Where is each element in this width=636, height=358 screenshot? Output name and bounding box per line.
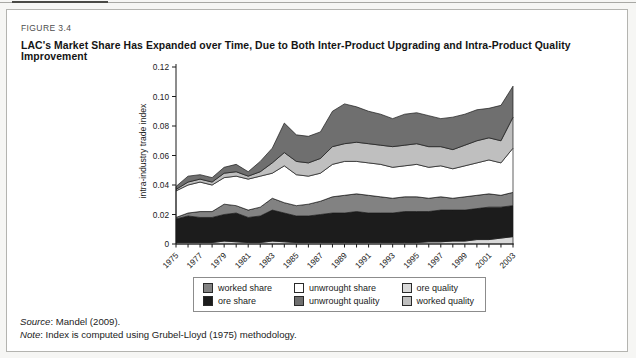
legend-item-ore-quality: ore quality [402, 283, 475, 293]
note-label: Note [20, 329, 40, 340]
figure-number-label: FIGURE 3.4 [21, 23, 71, 33]
legend-label: unwrought quality [309, 296, 380, 306]
x-tick-label: 1989 [329, 250, 349, 270]
y-tick-label: 0.06 [153, 151, 170, 161]
legend-label: ore share [218, 296, 256, 306]
chart-area: intra-industry trade index 00.020.040.06… [120, 60, 600, 278]
y-tick-label: 0.04 [153, 180, 170, 190]
legend-item-ore-share: ore share [203, 296, 272, 306]
page-top-rule-dark-segment [12, 1, 108, 3]
x-tick-label: 1977 [184, 250, 204, 270]
x-tick-label: 2003 [497, 250, 517, 270]
x-tick-label: 1975 [160, 250, 180, 270]
x-tick-label: 1991 [353, 250, 373, 270]
x-tick-label: 1985 [281, 250, 301, 270]
legend-swatch [203, 283, 213, 293]
legend-label: worked quality [417, 296, 475, 306]
y-tick-label: 0.10 [153, 92, 170, 102]
legend-item-worked-quality: worked quality [402, 296, 475, 306]
legend-item-worked-share: worked share [203, 283, 272, 293]
legend-label: worked share [218, 283, 272, 293]
legend-item-unwrought-quality: unwrought quality [294, 296, 380, 306]
legend-swatch [203, 296, 213, 306]
stacked-area-chart: 00.020.040.060.080.100.12197519771979198… [120, 60, 600, 278]
legend-label: ore quality [417, 283, 459, 293]
x-tick-label: 1987 [305, 250, 325, 270]
x-tick-label: 1999 [449, 250, 469, 270]
figure-title: LAC's Market Share Has Expanded over Tim… [21, 40, 617, 62]
source-text: : Mandel (2009). [50, 316, 120, 327]
y-axis-title: intra-industry trade index [138, 86, 148, 216]
x-tick-label: 1995 [401, 250, 421, 270]
legend-swatch [294, 296, 304, 306]
source-line: Source: Mandel (2009). [20, 315, 297, 328]
x-tick-label: 1979 [208, 250, 228, 270]
x-tick-label: 2001 [473, 250, 493, 270]
x-tick-label: 1993 [377, 250, 397, 270]
source-label: Source [20, 316, 50, 327]
y-tick-label: 0.02 [153, 210, 170, 220]
legend-item-unwrought-share: unwrought share [294, 283, 380, 293]
legend-swatch [294, 283, 304, 293]
legend-swatch [402, 296, 412, 306]
note-text: : Index is computed using Grubel-Lloyd (… [40, 329, 296, 340]
note-line: Note: Index is computed using Grubel-Llo… [20, 328, 297, 341]
legend-swatch [402, 283, 412, 293]
x-tick-label: 1983 [257, 250, 277, 270]
y-tick-label: 0.12 [153, 62, 170, 72]
legend-label: unwrought share [309, 283, 376, 293]
x-tick-label: 1981 [232, 250, 252, 270]
page: { "figure": { "label": "FIGURE 3.4", "ti… [0, 0, 636, 358]
source-note-block: Source: Mandel (2009). Note: Index is co… [20, 315, 297, 341]
y-tick-label: 0 [164, 239, 169, 249]
y-tick-label: 0.08 [153, 121, 170, 131]
figure-box: FIGURE 3.4 LAC's Market Share Has Expand… [6, 9, 628, 352]
chart-legend: worked shareunwrought shareore qualityor… [193, 277, 486, 312]
x-tick-label: 1997 [425, 250, 445, 270]
